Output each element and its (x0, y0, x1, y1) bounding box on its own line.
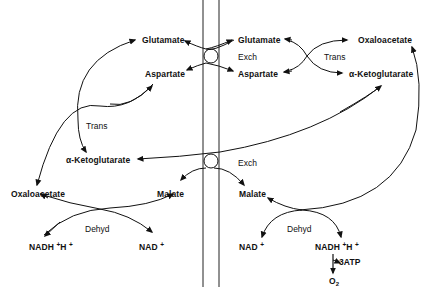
trans-left-glutamate-arrow (77, 40, 135, 120)
left-aspartate-label: Aspartate (145, 69, 185, 79)
shuttle-diagram: Glutamate Aspartate Trans α-Ketoglutarat… (0, 0, 426, 296)
right-oxaloacetate-label: Oxaloacetate (358, 35, 412, 45)
akg-transport-arrow (138, 86, 381, 159)
left-dehyd-label: Dehyd (85, 224, 110, 234)
left-trans-label: Trans (86, 121, 107, 131)
right-akg-label: α-Ketoglutarate (349, 69, 413, 79)
right-nad-label: NAD + (239, 240, 264, 252)
right-malate-label: Malate (239, 189, 266, 199)
left-nad-label: NAD + (139, 240, 164, 252)
oxygen-label: O2 (329, 276, 339, 289)
right-nadh-label: NADH +H + (315, 240, 359, 252)
left-akg-label: α-Ketoglutarate (66, 155, 130, 165)
right-glutamate-label: Glutamate (238, 35, 280, 45)
left-glutamate-label: Glutamate (142, 35, 184, 45)
top-exch-label: Exch (238, 52, 257, 62)
bottom-exch-label: Exch (238, 158, 257, 168)
right-dehyd-label: Dehyd (287, 224, 312, 234)
exchanger-bottom-icon (204, 154, 218, 168)
exchanger-top-icon (204, 49, 218, 63)
left-oxaloacetate-label: Oxaloacetate (11, 189, 65, 199)
right-aspartate-label: Aspartate (238, 69, 278, 79)
dehyd-right-malate-arrow (268, 198, 302, 210)
exch-malate-left-arrow (181, 168, 206, 180)
left-nadh-label: NADH +H + (29, 240, 73, 252)
right-trans-label: Trans (324, 52, 345, 62)
atp-label: 3ATP (339, 257, 361, 267)
left-malate-label: Malate (157, 189, 184, 199)
